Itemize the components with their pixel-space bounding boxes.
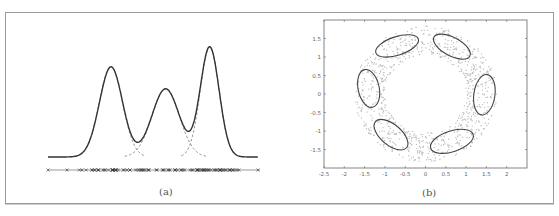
x-tick-label: -1 [382, 171, 387, 177]
x-tick-label: 0 [424, 171, 428, 177]
x-tick-label: 1 [464, 171, 468, 177]
gaussian-ellipse-2 [430, 29, 475, 64]
x-tick-label: -0.5 [400, 171, 411, 177]
y-tick-label: 1 [318, 54, 322, 60]
scatter-points [355, 26, 497, 163]
x-tick-label: 0.5 [441, 171, 450, 177]
gaussian-ellipse-5 [369, 114, 413, 156]
y-tick-label: 0.5 [312, 73, 321, 79]
y-tick-label: 0 [318, 91, 322, 97]
x-tick-label: 1.5 [482, 171, 491, 177]
gaussian-ellipse-6 [427, 125, 476, 159]
y-tick-label: -1.5 [310, 147, 321, 153]
y-tick-label: -1 [316, 128, 321, 134]
figure-frame: -2.5-2-1.5-1-0.500.511.521.510.50-0.5-1-… [5, 12, 554, 204]
x-tick-label: 2 [505, 171, 509, 177]
panel-label-b: (b) [422, 187, 436, 198]
y-tick-label: -0.5 [310, 110, 321, 116]
panel-label-a: (a) [159, 186, 173, 197]
ring-scatter-plot: -2.5-2-1.5-1-0.500.511.521.510.50-0.5-1-… [6, 13, 553, 203]
x-tick-label: -2.5 [319, 171, 330, 177]
y-tick-label: 1.5 [312, 36, 321, 42]
x-tick-label: -1.5 [359, 171, 370, 177]
x-tick-label: -2 [342, 171, 347, 177]
